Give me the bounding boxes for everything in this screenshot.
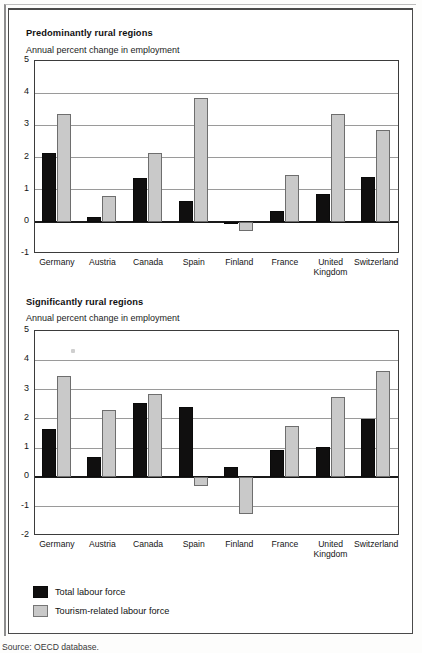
legend-label-total: Total labour force (55, 587, 125, 597)
y-axis-tick-label: 1 (13, 183, 29, 193)
x-axis-tick-label: Spain (171, 539, 217, 549)
bar-tourism-switzerland (376, 130, 390, 222)
y-axis-tick-label: 1 (13, 441, 29, 451)
legend-item-total: Total labour force (33, 586, 169, 598)
bar-total-united-kingdom (316, 447, 330, 478)
y-axis-tick-label: 5 (13, 54, 29, 64)
bar-total-finland (224, 467, 238, 477)
x-axis-tick-label: France (262, 257, 308, 267)
y-axis-tick-label: 0 (13, 470, 29, 480)
bar-total-germany (42, 429, 56, 477)
legend-label-tourism: Tourism-related labour force (55, 606, 169, 616)
y-axis-tick-label: -2 (13, 529, 29, 539)
bar-tourism-spain (194, 477, 208, 486)
legend-swatch-tourism (33, 605, 48, 617)
x-axis-tick-label: Germany (34, 257, 80, 267)
y-axis-tick-label: 0 (13, 215, 29, 225)
bar-total-germany (42, 153, 56, 222)
x-axis-tick-label: Austria (80, 257, 126, 267)
bar-tourism-united-kingdom (331, 114, 345, 222)
x-axis-tick-label: UnitedKingdom (308, 257, 354, 277)
bar-tourism-spain (194, 98, 208, 222)
x-axis-tick-label: Canada (125, 539, 171, 549)
y-axis-tick-label: 5 (13, 324, 29, 334)
bar-tourism-austria (102, 410, 116, 477)
y-axis-tick-label: 3 (13, 383, 29, 393)
panel-subtitle-predominantly-rural: Annual percent change in employment (26, 45, 180, 55)
bar-total-switzerland (361, 177, 375, 222)
x-axis-tick-label: Finland (217, 539, 263, 549)
scan-artifact (71, 349, 75, 353)
bar-total-france (270, 450, 284, 478)
y-axis-tick-label: 3 (13, 118, 29, 128)
y-axis-tick-label: -1 (13, 247, 29, 257)
bar-tourism-switzerland (376, 371, 390, 478)
x-axis-tick-label: Switzerland (353, 539, 399, 549)
bar-tourism-united-kingdom (331, 397, 345, 478)
x-axis-tick-label: Germany (34, 539, 80, 549)
legend-swatch-total (33, 586, 48, 598)
source-note: Source: OECD database. (2, 642, 99, 653)
bar-total-france (270, 211, 284, 222)
panel-title-predominantly-rural: Predominantly rural regions (26, 28, 153, 38)
x-axis-tick-label: UnitedKingdom (308, 539, 354, 559)
bar-tourism-canada (148, 153, 162, 222)
y-axis-tick-label: -1 (13, 500, 29, 510)
plot-area-predominantly-rural (34, 60, 399, 253)
plot-area-significantly-rural (34, 330, 399, 535)
y-axis-tick-label: 2 (13, 412, 29, 422)
gridline (35, 360, 398, 361)
x-axis-tick-label: Switzerland (353, 257, 399, 267)
y-axis-tick-label: 4 (13, 86, 29, 96)
gridline (35, 506, 398, 507)
bar-total-switzerland (361, 419, 375, 478)
x-axis-tick-label: Austria (80, 539, 126, 549)
panel-subtitle-significantly-rural: Annual percent change in employment (26, 313, 180, 323)
bar-total-spain (179, 407, 193, 477)
figure-content: Predominantly rural regions Annual perce… (8, 8, 413, 634)
gridline (35, 389, 398, 390)
bar-total-austria (87, 457, 101, 478)
x-axis-tick-label: Finland (217, 257, 263, 267)
bar-total-canada (133, 178, 147, 221)
bar-total-finland (224, 222, 238, 224)
x-axis-tick-label: Canada (125, 257, 171, 267)
bar-total-spain (179, 201, 193, 222)
bar-tourism-finland (239, 477, 253, 514)
legend-item-tourism: Tourism-related labour force (33, 605, 169, 617)
bar-tourism-austria (102, 196, 116, 222)
y-axis-tick-label: 2 (13, 151, 29, 161)
bar-tourism-germany (57, 376, 71, 477)
panel-title-significantly-rural: Significantly rural regions (26, 297, 143, 307)
bar-tourism-canada (148, 394, 162, 477)
gridline (35, 93, 398, 94)
bar-tourism-france (285, 426, 299, 477)
bar-tourism-france (285, 175, 299, 222)
bar-tourism-finland (239, 222, 253, 232)
figure-legend: Total labour forceTourism-related labour… (33, 586, 169, 624)
bar-total-austria (87, 217, 101, 222)
y-axis-tick-label: 4 (13, 353, 29, 363)
x-axis-tick-label: France (262, 539, 308, 549)
bar-tourism-germany (57, 114, 71, 222)
bar-total-united-kingdom (316, 194, 330, 221)
bar-total-canada (133, 403, 147, 478)
figure-page: Predominantly rural regions Annual perce… (0, 0, 422, 653)
x-axis-tick-label: Spain (171, 257, 217, 267)
